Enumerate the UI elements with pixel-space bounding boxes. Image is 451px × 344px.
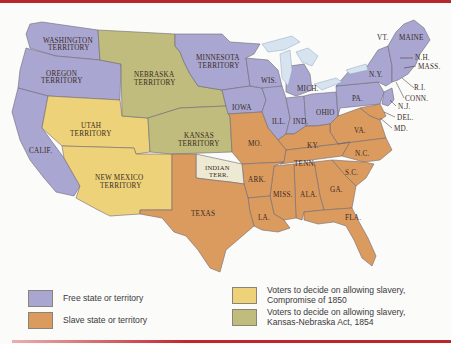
bottom-accent-bar (12, 340, 451, 343)
swatch-compromise-1850 (232, 287, 257, 304)
label-minnesota-l2: TERRITORY (198, 62, 240, 70)
swatch-kansas-nebraska (232, 309, 257, 326)
label-miss: MISS. (273, 191, 293, 199)
label-sc: S.C. (345, 169, 358, 177)
label-oregon-l2: TERRITORY (41, 77, 83, 85)
legend-label-compromise-l2: Compromise of 1850 (267, 296, 405, 306)
label-del: DEL. (397, 114, 414, 122)
label-nebraska-l1: NEBRASKA (134, 71, 175, 79)
label-indian-l2: TERR. (209, 171, 229, 178)
label-newmexico-l1: NEW MEXICO (95, 174, 143, 182)
label-utah-l1: UTAH (81, 122, 101, 130)
us-map-1854: WASHINGTON TERRITORY OREGON TERRITORY CA… (0, 0, 451, 280)
legend-label-slave: Slave state or territory (63, 316, 147, 326)
map-legend: Free state or territory Slave state or t… (0, 282, 451, 338)
label-mo: MO. (248, 140, 262, 148)
label-ri: R.I. (414, 84, 426, 92)
label-iowa: IOWA (232, 104, 252, 112)
label-nc: N.C. (355, 150, 369, 158)
swatch-free (28, 290, 53, 307)
label-ala: ALA. (300, 191, 317, 199)
label-calif: CALIF. (29, 147, 52, 155)
label-wis: WIS. (261, 77, 277, 85)
label-minnesota-l1: MINNESOTA (196, 54, 240, 62)
legend-label-kansas-l2: Kansas-Nebraska Act, 1854 (267, 318, 405, 328)
label-conn: CONN. (405, 95, 428, 103)
label-ind: IND. (293, 118, 308, 126)
region-wisconsin (246, 58, 282, 90)
region-florida (304, 208, 376, 266)
label-pa: PA. (352, 95, 363, 103)
label-kansas-l2: TERRITORY (178, 140, 220, 148)
region-newengland (388, 20, 430, 82)
legend-item-compromise-1850: Voters to decide on allowing slavery, Co… (232, 286, 405, 305)
label-nh: N.H. (415, 54, 430, 62)
label-fla: FLA. (345, 214, 361, 222)
label-washington-l2: TERRITORY (48, 44, 90, 52)
label-texas: TEXAS (191, 210, 215, 218)
label-la: LA. (258, 214, 270, 222)
label-utah-l2: TERRITORY (70, 130, 112, 138)
label-ga: GA. (330, 186, 343, 194)
label-nebraska-l2: TERRITORY (134, 79, 176, 87)
label-vt: VT. (377, 34, 388, 42)
label-maine: MAINE (399, 34, 424, 42)
label-indian-l1: INDIAN (205, 164, 230, 171)
label-nj: N.J. (398, 103, 410, 111)
label-ark: ARK. (248, 176, 266, 184)
legend-label-free: Free state or territory (63, 294, 143, 304)
label-kansas-l1: KANSAS (184, 132, 214, 140)
region-nj (382, 88, 394, 106)
label-ohio: OHIO (316, 109, 335, 117)
swatch-slave (28, 312, 53, 329)
legend-item-slave: Slave state or territory (28, 312, 147, 329)
label-md: MD. (394, 125, 408, 133)
label-mich: MICH. (297, 85, 319, 93)
legend-item-free: Free state or territory (28, 290, 143, 307)
label-ill: ILL. (272, 118, 286, 126)
label-newmexico-l2: TERRITORY (100, 182, 142, 190)
label-ky: KY. (307, 142, 319, 150)
label-ny: N.Y. (369, 71, 383, 79)
label-mass: MASS. (418, 63, 440, 71)
label-va: VA. (354, 127, 366, 135)
legend-item-kansas-nebraska: Voters to decide on allowing slavery, Ka… (232, 308, 405, 327)
label-tenn: TENN. (294, 160, 316, 168)
